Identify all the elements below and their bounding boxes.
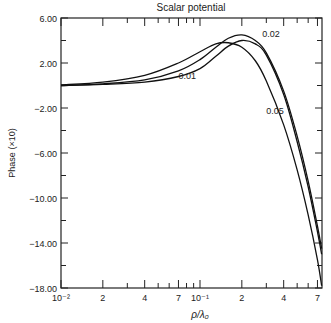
x-tick-label: 4 [281, 293, 286, 303]
x-tick-label: 2 [100, 293, 105, 303]
x-tick-label: 10⁻² [52, 293, 70, 303]
y-tick-label: 2.00 [39, 59, 57, 69]
y-tick-label: −18.00 [29, 284, 57, 294]
curve-label: 0.01 [178, 71, 196, 81]
y-tick-label: 6.00 [39, 14, 57, 24]
curve-label: 0.05 [266, 106, 284, 116]
y-tick-label: −10.00 [29, 194, 57, 204]
y-tick-label: −6.00 [34, 149, 57, 159]
plot-frame [61, 18, 322, 288]
phase-chart: Scalar potential 6.002.00−2.00−6.00−10.0… [0, 0, 331, 323]
x-tick-label: 2 [239, 293, 244, 303]
y-tick-label: −2.00 [34, 104, 57, 114]
x-tick-label: 4 [142, 293, 147, 303]
x-tick-label: 7 [315, 293, 320, 303]
y-axis-label: Phase (×10) [7, 128, 17, 177]
curve-labels: 0.020.010.05 [178, 29, 283, 116]
x-axis-label: ρ/λ₀ [190, 309, 209, 320]
y-tick-label: −14.00 [29, 239, 57, 249]
curve-label: 0.02 [262, 29, 280, 39]
chart-title: Scalar potential [157, 2, 226, 13]
x-tick-label: 10⁻¹ [191, 293, 209, 303]
y-axis: 6.002.00−2.00−6.00−10.00−14.00−18.00 [29, 14, 322, 294]
curve-0.02 [61, 35, 322, 249]
x-tick-label: 7 [176, 293, 181, 303]
x-axis: 10⁻²24710⁻¹247 [52, 18, 320, 303]
